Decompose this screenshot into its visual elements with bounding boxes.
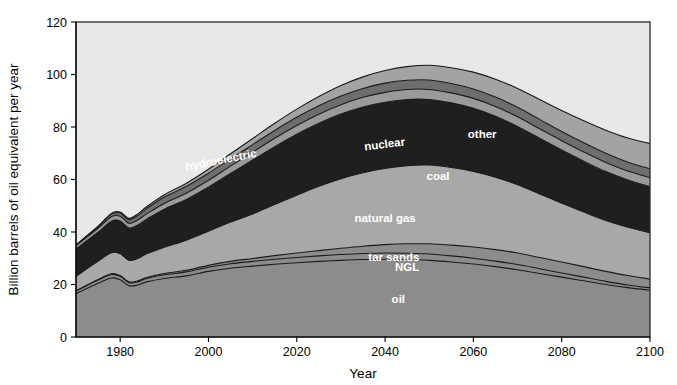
x-tick-label: 2080 (548, 345, 576, 359)
chart-figure: 0204060801001201980200020202040206020802… (0, 0, 677, 385)
y-tick-label: 80 (53, 121, 67, 135)
y-tick-label: 120 (46, 16, 67, 30)
x-tick-label: 2040 (371, 345, 399, 359)
stacked-area-chart: 0204060801001201980200020202040206020802… (0, 0, 677, 385)
y-tick-label: 20 (53, 278, 67, 292)
series-label-NGL: NGL (395, 261, 419, 273)
x-tick-label: 2020 (283, 345, 311, 359)
series-label-coal: coal (427, 170, 450, 182)
y-axis-title: Billion barrels of oil equivalent per ye… (6, 63, 21, 295)
x-tick-label: 1980 (106, 345, 134, 359)
series-label-other: other (468, 128, 497, 140)
caption-strip (0, 376, 677, 385)
y-tick-label: 40 (53, 226, 67, 240)
series-label-natural-gas: natural gas (354, 212, 415, 224)
y-tick-label: 100 (46, 68, 67, 82)
x-tick-label: 2000 (195, 345, 223, 359)
x-tick-label: 2100 (636, 345, 664, 359)
y-tick-label: 60 (53, 173, 67, 187)
series-label-tar-sands: tar sands (368, 251, 419, 263)
x-tick-label: 2060 (459, 345, 487, 359)
series-label-oil: oil (392, 293, 405, 305)
y-tick-label: 0 (60, 331, 67, 345)
